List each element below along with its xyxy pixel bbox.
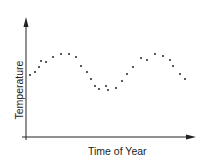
data-point — [52, 56, 54, 58]
data-point — [94, 85, 96, 87]
data-point — [45, 61, 47, 63]
data-point — [184, 78, 186, 80]
data-point — [80, 65, 82, 67]
data-point — [162, 55, 164, 57]
data-point — [86, 71, 88, 73]
data-points — [29, 53, 186, 91]
data-point — [132, 66, 134, 68]
chart-canvas — [0, 0, 211, 164]
data-point — [40, 60, 42, 62]
data-point — [126, 73, 128, 75]
data-point — [68, 53, 70, 55]
data-point — [98, 88, 100, 90]
data-point — [29, 74, 31, 76]
data-point — [34, 71, 36, 73]
data-point — [140, 57, 142, 59]
data-point — [60, 53, 62, 55]
data-point — [105, 85, 107, 87]
x-axis-arrow-icon — [186, 135, 196, 140]
y-axis-arrow-icon — [24, 17, 29, 27]
y-axis-label: Temperature — [13, 55, 25, 125]
data-point — [38, 66, 40, 68]
data-point — [179, 73, 181, 75]
data-point — [90, 78, 92, 80]
data-point — [169, 59, 171, 61]
data-point — [121, 80, 123, 82]
data-point — [146, 59, 148, 61]
data-point — [75, 56, 77, 58]
data-point — [115, 87, 117, 89]
data-point — [172, 65, 174, 67]
data-point — [154, 53, 156, 55]
data-point — [107, 89, 109, 91]
x-axis-label: Time of Year — [88, 145, 147, 157]
